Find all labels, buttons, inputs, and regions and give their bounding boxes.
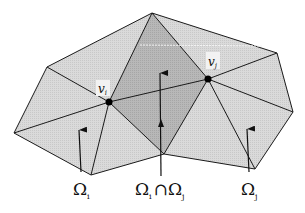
vertex-v-i <box>106 99 113 106</box>
intersection-label: Ωi∩Ωj <box>135 179 185 201</box>
vertex-v-j <box>205 76 212 83</box>
triangulation-diagram: vi vj Ωi Ωi∩Ωj Ωj <box>0 0 305 213</box>
omega-i-label: Ωi <box>73 179 90 201</box>
omega-j-label: Ωj <box>241 179 258 201</box>
